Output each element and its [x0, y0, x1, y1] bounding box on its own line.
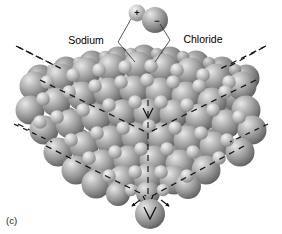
- sodium-charge-symbol: +: [134, 8, 139, 18]
- crystal-front-layer: [16, 52, 267, 207]
- crystal-diagram: + − Sodium Chloride (c): [0, 0, 282, 234]
- sodium-label: Sodium: [68, 34, 104, 46]
- chloride-charge-symbol: −: [154, 16, 159, 26]
- detached-chloride-sphere: [135, 199, 165, 229]
- sodium-leader-to-legend: [118, 19, 131, 42]
- detached-arrow-right: [161, 200, 169, 206]
- panel-label: (c): [6, 215, 17, 226]
- detached-ion-group: [132, 199, 169, 229]
- figure-container: + − Sodium Chloride (c): [0, 0, 282, 234]
- legend-group: + −: [129, 5, 169, 34]
- chloride-label: Chloride: [183, 33, 222, 45]
